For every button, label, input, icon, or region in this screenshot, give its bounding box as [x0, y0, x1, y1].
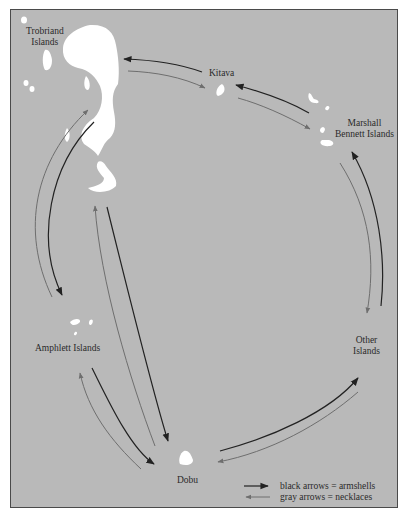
kitava-shape: [216, 84, 224, 96]
marshall-label-line2: Bennett Islands: [335, 129, 394, 140]
marshall-bennett-shapes: [308, 93, 333, 146]
legend-armshells: black arrows = armshells: [280, 481, 375, 492]
amphlett-label: Amphlett Islands: [35, 343, 100, 354]
other-label-line1: Other: [353, 335, 380, 346]
kitava-label-line1: Kitava: [209, 68, 234, 79]
dobu-label: Dobu: [177, 475, 198, 486]
other-label-line2: Islands: [353, 346, 380, 357]
legend-necklaces: gray arrows = necklaces: [280, 492, 372, 503]
other-islands-label: Other Islands: [353, 335, 380, 357]
trobriand-label-line1: Trobriand: [26, 26, 64, 37]
dobu-shape: [179, 451, 193, 465]
map-graphics: [0, 0, 407, 517]
amphlett-label-line1: Amphlett Islands: [35, 343, 100, 354]
dobu-label-line1: Dobu: [177, 475, 198, 486]
kitava-label: Kitava: [209, 68, 234, 79]
trobriand-label-line2: Islands: [26, 37, 64, 48]
marshall-bennett-label: Marshall Bennett Islands: [335, 118, 394, 140]
marshall-label-line1: Marshall: [335, 118, 394, 129]
trobriand-label: Trobriand Islands: [26, 26, 64, 48]
amphlett-islands-shapes: [70, 319, 93, 335]
